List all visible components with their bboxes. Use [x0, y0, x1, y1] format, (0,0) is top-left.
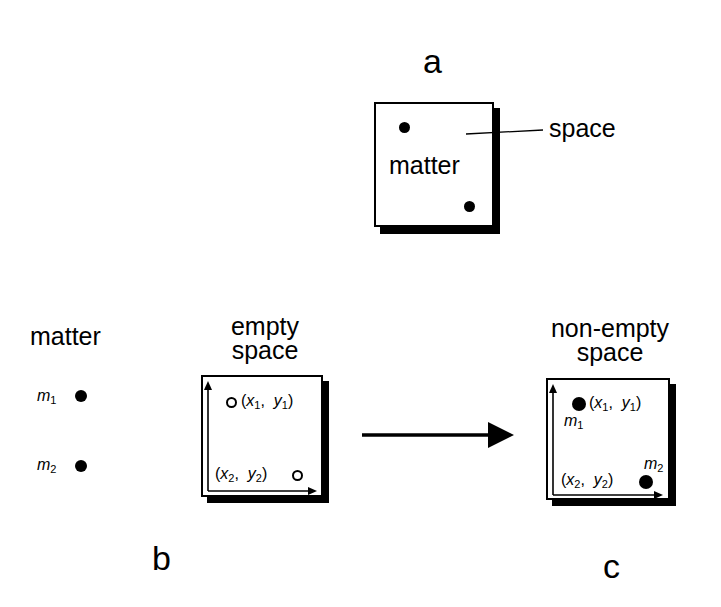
mass-label-c-m2: m2 [644, 456, 663, 474]
panel-c-label: c [603, 549, 620, 583]
coord-label-c1: (x1, y1) [589, 395, 641, 413]
mass-point-m1 [572, 397, 586, 411]
non-empty-space-axes [0, 0, 721, 607]
coord-label-c2: (x2, y2) [561, 472, 613, 490]
mass-label-c-m1: m1 [564, 413, 583, 431]
mass-point-m2 [639, 475, 653, 489]
